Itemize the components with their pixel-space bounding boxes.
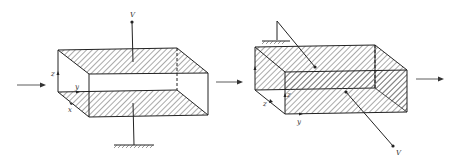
output-arrow-icon — [416, 77, 444, 82]
right-terminal-label: V — [396, 149, 402, 157]
diagram-canvas: V z y x — [0, 0, 463, 161]
input-arrow-icon — [17, 83, 46, 88]
left-axis-x: x — [68, 106, 72, 114]
right-axis-y: y — [296, 118, 302, 126]
right-axis-x: z — [262, 100, 267, 108]
left-terminal-label: V — [130, 11, 136, 19]
right-axis-z: z — [286, 91, 291, 99]
right-slab-figure: V z y z — [254, 21, 408, 157]
left-slab-figure: V z y x — [50, 11, 208, 148]
middle-arrow-icon — [216, 80, 243, 85]
left-axis-z: z — [50, 70, 55, 78]
left-axis-y: y — [74, 83, 80, 91]
